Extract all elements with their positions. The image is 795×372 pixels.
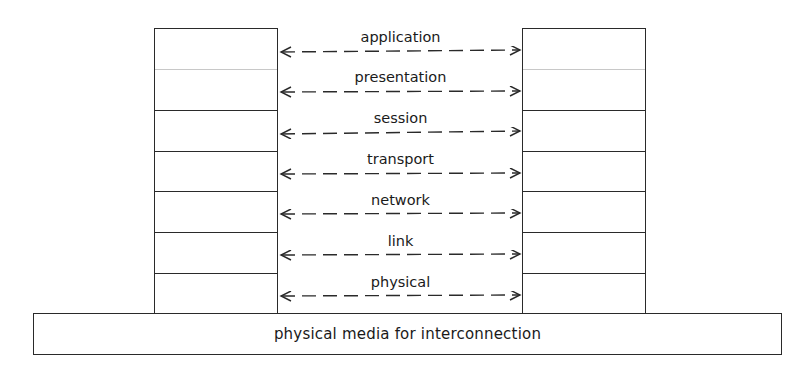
double-arrow-icon (279, 127, 522, 139)
layer-label: network (279, 192, 522, 208)
peer-protocol-physical: physical (279, 274, 522, 308)
double-arrow-icon (279, 168, 522, 180)
layer-label: transport (279, 151, 522, 167)
layer-label: session (279, 110, 522, 126)
peer-protocol-presentation: presentation (279, 69, 522, 103)
double-arrow-icon (279, 291, 522, 303)
right-cell-network (523, 192, 645, 233)
peer-protocol-transport: transport (279, 151, 522, 185)
double-arrow-icon (279, 86, 522, 98)
physical-media-box: physical media for interconnection (33, 313, 782, 355)
peer-protocol-link: link (279, 233, 522, 267)
double-arrow-icon (279, 250, 522, 262)
right-cell-presentation (523, 70, 645, 111)
left-cell-link (155, 233, 277, 274)
media-label: physical media for interconnection (274, 325, 541, 343)
left-layer-stack (154, 28, 278, 314)
right-cell-transport (523, 152, 645, 193)
left-cell-transport (155, 152, 277, 193)
layer-label: link (279, 233, 522, 249)
left-cell-presentation (155, 70, 277, 111)
double-arrow-icon (279, 209, 522, 221)
left-cell-application (155, 29, 277, 70)
left-cell-network (155, 192, 277, 233)
right-cell-application (523, 29, 645, 70)
left-cell-physical (155, 274, 277, 315)
peer-protocol-network: network (279, 192, 522, 226)
right-cell-link (523, 233, 645, 274)
double-arrow-icon (279, 46, 522, 58)
right-layer-stack (522, 28, 646, 314)
layer-label: application (279, 29, 522, 45)
peer-protocol-session: session (279, 110, 522, 144)
right-cell-physical (523, 274, 645, 315)
layer-label: presentation (279, 69, 522, 85)
layer-label: physical (279, 274, 522, 290)
left-cell-session (155, 111, 277, 152)
right-cell-session (523, 111, 645, 152)
peer-protocol-application: application (279, 29, 522, 63)
